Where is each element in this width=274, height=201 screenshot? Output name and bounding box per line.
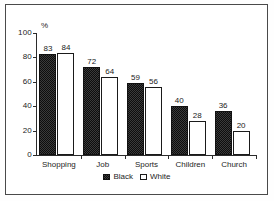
bar-children-white: 28 — [189, 121, 206, 155]
bar-children-black: 40 — [171, 106, 188, 155]
x-axis-tick — [256, 155, 257, 159]
y-axis-tick — [33, 131, 37, 132]
bar-value-label: 84 — [61, 44, 70, 52]
chart-legend: BlackWhite — [0, 173, 274, 181]
bar-sports-black: 59 — [127, 83, 144, 155]
y-axis-tick-label: 40 — [23, 102, 32, 110]
legend-item-black[interactable]: Black — [103, 173, 133, 181]
category-label-children: Children — [175, 160, 205, 169]
y-axis-tick — [33, 33, 37, 34]
chart-figure: % 020406080100 83847264595640283620 Shop… — [0, 0, 274, 201]
y-axis-tick-label: 0 — [27, 151, 32, 159]
y-axis-tick-label: 20 — [23, 127, 32, 135]
x-axis-tick — [125, 155, 126, 159]
y-axis-tick — [33, 57, 37, 58]
y-axis-tick — [33, 106, 37, 107]
y-axis-title: % — [41, 22, 48, 30]
category-label-job: Job — [96, 160, 109, 169]
bar-church-white: 20 — [233, 131, 250, 155]
y-axis-tick-label: 80 — [23, 53, 32, 61]
legend-label: White — [150, 173, 170, 181]
bar-shopping-white: 84 — [57, 53, 74, 155]
bar-value-label: 64 — [105, 68, 114, 76]
bar-church-black: 36 — [215, 111, 232, 155]
bar-sports-white: 56 — [145, 87, 162, 155]
bar-value-label: 40 — [175, 97, 184, 105]
legend-label: Black — [113, 173, 133, 181]
plot-area: 020406080100 83847264595640283620 Shoppi… — [37, 33, 256, 155]
y-axis-tick — [33, 82, 37, 83]
category-label-shopping: Shopping — [42, 160, 76, 169]
bar-value-label: 56 — [149, 78, 158, 86]
x-axis-line — [36, 155, 256, 156]
category-label-sports: Sports — [135, 160, 158, 169]
bar-value-label: 72 — [87, 58, 96, 66]
bar-value-label: 20 — [237, 122, 246, 130]
x-axis-tick — [212, 155, 213, 159]
y-axis-tick-label: 60 — [23, 78, 32, 86]
bar-value-label: 83 — [43, 45, 52, 53]
bar-job-black: 72 — [83, 67, 100, 155]
y-axis-tick-label: 100 — [18, 29, 32, 37]
y-axis-tick — [33, 155, 37, 156]
legend-swatch-icon — [140, 174, 147, 180]
bar-value-label: 28 — [193, 112, 202, 120]
legend-swatch-icon — [103, 174, 110, 180]
x-axis-tick — [168, 155, 169, 159]
bar-job-white: 64 — [101, 77, 118, 155]
legend-item-white[interactable]: White — [140, 173, 170, 181]
y-axis-line — [36, 33, 37, 156]
bar-value-label: 36 — [219, 102, 228, 110]
x-axis-tick — [81, 155, 82, 159]
bar-shopping-black: 83 — [39, 54, 56, 155]
bar-value-label: 59 — [131, 74, 140, 82]
category-label-church: Church — [221, 160, 247, 169]
